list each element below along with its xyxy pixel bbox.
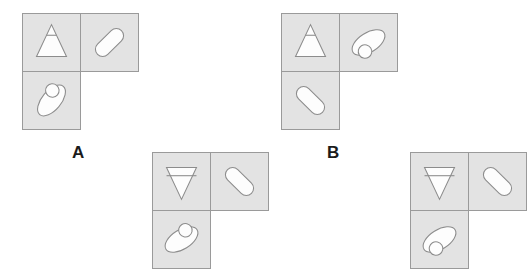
group-b-cell-top-right[interactable]	[339, 13, 398, 72]
group-a-cell-bottom-left[interactable]	[22, 71, 81, 130]
ellipse-with-circle-icon	[340, 14, 397, 71]
group-b-cell-top-left[interactable]	[281, 13, 340, 72]
group-d-cell-bottom-left[interactable]	[410, 210, 469, 269]
group-b-cell-bottom-left[interactable]	[281, 71, 340, 130]
rounded-rectangle-icon	[469, 153, 526, 210]
group-d-cell-top-left[interactable]	[410, 152, 469, 211]
group-a-cell-top-left[interactable]	[22, 13, 81, 72]
triangle-up-icon	[23, 14, 80, 71]
triangle-down-icon	[153, 153, 210, 210]
group-c-cell-bottom-left[interactable]	[152, 210, 211, 269]
ellipse-with-circle-icon	[23, 72, 80, 129]
triangle-down-icon	[411, 153, 468, 210]
triangle-up-icon	[282, 14, 339, 71]
group-b-label: B	[327, 144, 340, 161]
group-a-label: A	[72, 144, 85, 161]
group-c-cell-top-left[interactable]	[152, 152, 211, 211]
group-a-cell-top-right[interactable]	[80, 13, 139, 72]
ellipse-with-circle-icon	[153, 211, 210, 268]
group-d-cell-top-right[interactable]	[468, 152, 527, 211]
group-c-cell-top-right[interactable]	[210, 152, 269, 211]
rounded-rectangle-icon	[282, 72, 339, 129]
rounded-rectangle-icon	[211, 153, 268, 210]
rounded-rectangle-icon	[81, 14, 138, 71]
ellipse-with-circle-icon	[411, 211, 468, 268]
